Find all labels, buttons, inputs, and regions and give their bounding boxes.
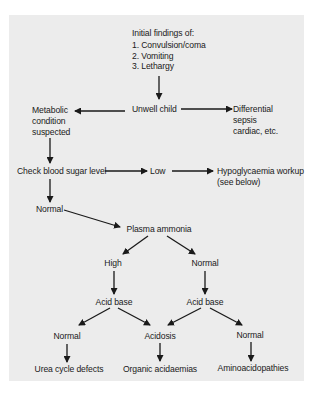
initial-finding-item: 3. Lethargy xyxy=(132,61,174,72)
outcome-urea-cycle-defects: Urea cycle defects xyxy=(35,364,104,375)
node-metabolic: Metabolic xyxy=(32,105,68,116)
node-acid-base-left: Acid base xyxy=(96,297,133,308)
arrow-acidbase-left-to-acidosis xyxy=(118,308,150,325)
node-low: Low xyxy=(150,166,165,177)
arrow-acidbase-right-to-normal xyxy=(210,308,242,325)
initial-finding-item: 1. Convulsion/coma xyxy=(132,40,206,51)
initial-findings-header: Initial findings of: xyxy=(132,28,194,39)
node-hypoglycaemia-note: (see below) xyxy=(217,177,260,188)
arrow-ammonia-to-normal xyxy=(167,236,195,254)
node-normal-sugar: Normal xyxy=(36,204,63,215)
outcome-aminoacidopathies: Aminoacidopathies xyxy=(218,363,289,374)
arrow-normal-to-ammonia xyxy=(64,210,120,227)
arrow-acidbase-left-to-normal xyxy=(79,308,110,325)
node-unwell-child: Unwell child xyxy=(132,104,177,115)
node-plasma-ammonia: Plasma ammonia xyxy=(127,224,192,235)
arrow-acidbase-right-to-acidosis xyxy=(168,308,201,325)
node-hypoglycaemia: Hypoglycaemia workup xyxy=(217,166,304,177)
node-acidosis: Acidosis xyxy=(144,331,175,342)
node-metabolic: condition xyxy=(32,116,66,127)
node-normal-left: Normal xyxy=(53,331,80,342)
node-differential: Differential xyxy=(233,104,273,115)
node-normal-ammonia: Normal xyxy=(191,258,218,269)
node-acid-base-right: Acid base xyxy=(187,297,224,308)
node-metabolic: suspected xyxy=(32,127,70,138)
arrow-ammonia-to-high xyxy=(123,236,148,254)
node-check-blood-sugar: Check blood sugar level xyxy=(17,166,106,177)
outcome-organic-acidaemias: Organic acidaemias xyxy=(123,364,197,375)
node-high: High xyxy=(104,258,121,269)
node-differential: cardiac, etc. xyxy=(233,126,278,137)
node-normal-right: Normal xyxy=(236,330,263,341)
node-differential: sepsis xyxy=(233,115,257,126)
